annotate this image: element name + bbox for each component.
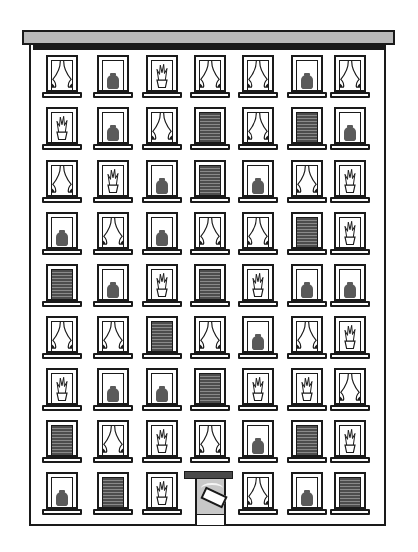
window-vase bbox=[332, 264, 368, 310]
window-blind bbox=[192, 160, 228, 206]
curtain-icon bbox=[248, 478, 268, 505]
window-curtain bbox=[240, 55, 276, 101]
curtain-icon bbox=[103, 322, 123, 349]
potted-plant-icon bbox=[103, 166, 123, 193]
window-plant bbox=[240, 368, 276, 414]
window-pane bbox=[296, 269, 318, 299]
potted-plant-icon bbox=[297, 374, 317, 401]
window-pane bbox=[339, 269, 361, 299]
window-curtain bbox=[240, 472, 276, 518]
window-vase bbox=[144, 160, 180, 206]
window-frame bbox=[146, 368, 178, 405]
potted-plant-icon bbox=[340, 218, 360, 245]
window-pane bbox=[102, 165, 124, 195]
window-sill bbox=[330, 92, 370, 98]
window-curtain bbox=[332, 368, 368, 414]
window-pane bbox=[296, 112, 318, 142]
window-frame bbox=[97, 472, 129, 509]
potted-plant-icon bbox=[152, 61, 172, 88]
window-blind bbox=[192, 264, 228, 310]
vase-icon bbox=[107, 388, 119, 402]
window-frame bbox=[242, 212, 274, 249]
window-sill bbox=[93, 144, 133, 150]
vase-icon bbox=[252, 180, 264, 194]
window-vase bbox=[44, 472, 80, 518]
potted-plant-icon bbox=[340, 322, 360, 349]
window-sill bbox=[330, 144, 370, 150]
window-sill bbox=[287, 301, 327, 307]
window-pane bbox=[339, 112, 361, 142]
window-frame bbox=[46, 212, 78, 249]
window-blind bbox=[289, 420, 325, 466]
window-blind bbox=[297, 218, 317, 247]
window-sill bbox=[93, 301, 133, 307]
window-frame bbox=[97, 160, 129, 197]
window-pane bbox=[51, 477, 73, 507]
window-pane bbox=[199, 165, 221, 195]
window-frame bbox=[291, 55, 323, 92]
window-sill bbox=[330, 301, 370, 307]
window-pane bbox=[51, 60, 73, 90]
window-pane bbox=[199, 425, 221, 455]
window-sill bbox=[93, 457, 133, 463]
window-vase bbox=[240, 160, 276, 206]
window-frame bbox=[46, 420, 78, 457]
window-sill bbox=[238, 249, 278, 255]
window-pane bbox=[296, 425, 318, 455]
vase-icon bbox=[252, 440, 264, 454]
window-blind bbox=[297, 426, 317, 455]
window-pane bbox=[339, 165, 361, 195]
window-frame bbox=[97, 55, 129, 92]
potted-plant-icon bbox=[248, 270, 268, 297]
window-frame bbox=[242, 420, 274, 457]
window-sill bbox=[42, 353, 82, 359]
window-pane bbox=[296, 321, 318, 351]
window-pane bbox=[247, 60, 269, 90]
door-canopy bbox=[184, 471, 233, 479]
window-curtain bbox=[192, 316, 228, 362]
window-sill bbox=[93, 509, 133, 515]
window-frame bbox=[146, 212, 178, 249]
window-frame bbox=[291, 316, 323, 353]
window-pane bbox=[151, 217, 173, 247]
window-frame bbox=[97, 264, 129, 301]
vase-icon bbox=[156, 388, 168, 402]
window-blind bbox=[192, 107, 228, 153]
window-frame bbox=[97, 420, 129, 457]
window-frame bbox=[97, 368, 129, 405]
window-sill bbox=[238, 509, 278, 515]
window-sill bbox=[93, 249, 133, 255]
window-curtain bbox=[44, 55, 80, 101]
window-sill bbox=[42, 509, 82, 515]
window-pane bbox=[247, 373, 269, 403]
window-sill bbox=[238, 92, 278, 98]
window-pane bbox=[102, 217, 124, 247]
window-pane bbox=[339, 321, 361, 351]
entrance-door[interactable] bbox=[195, 479, 226, 525]
window-sill bbox=[42, 92, 82, 98]
window-curtain bbox=[192, 420, 228, 466]
window-sill bbox=[142, 405, 182, 411]
window-frame bbox=[291, 368, 323, 405]
window-blind bbox=[340, 478, 360, 507]
window-pane bbox=[339, 217, 361, 247]
window-sill bbox=[42, 249, 82, 255]
window-vase bbox=[95, 55, 131, 101]
window-pane bbox=[102, 425, 124, 455]
potted-plant-icon bbox=[52, 374, 72, 401]
window-curtain bbox=[240, 212, 276, 258]
window-sill bbox=[142, 92, 182, 98]
window-sill bbox=[287, 249, 327, 255]
window-frame bbox=[291, 420, 323, 457]
window-pane bbox=[247, 112, 269, 142]
potted-plant-icon bbox=[152, 478, 172, 505]
window-sill bbox=[330, 457, 370, 463]
window-pane bbox=[151, 321, 173, 351]
window-pane bbox=[51, 269, 73, 299]
window-vase bbox=[240, 420, 276, 466]
vase-icon bbox=[107, 75, 119, 89]
window-blind bbox=[103, 478, 123, 507]
window-pane bbox=[151, 112, 173, 142]
window-curtain bbox=[95, 420, 131, 466]
window-curtain bbox=[289, 160, 325, 206]
